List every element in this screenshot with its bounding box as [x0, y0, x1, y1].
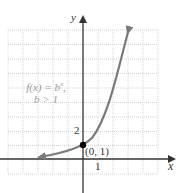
y-axis-label: y [71, 11, 76, 23]
x-axis-label: x [168, 159, 173, 174]
function-label: f(x) = bx, b > 1 [20, 78, 72, 105]
tick-label-y-2: 2 [74, 124, 80, 136]
function-label-line1: f(x) = b [26, 81, 60, 93]
tick-label-x-1: 1 [95, 160, 101, 172]
function-comma: , [63, 81, 66, 93]
point-label: (0, 1) [85, 145, 109, 157]
function-label-line2: b > 1 [20, 93, 72, 105]
